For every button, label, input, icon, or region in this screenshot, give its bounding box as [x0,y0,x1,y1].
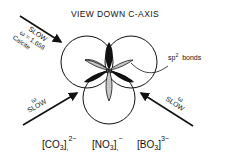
diagram-title: VIEW DOWN C-AXIS [71,9,159,19]
ion-formulas: [CO3],2− [NO3],− [BO3]3− [42,135,169,151]
top-left-annotation: SLOW ω = 1.658 Calcite [12,20,52,57]
lobe-top [105,42,113,70]
bottom-right-annotation: ω SLOW [164,89,189,112]
ion-borate: [BO3]3− [137,135,169,151]
sp2-pointer-line [131,63,168,73]
bottom-left-annotation: ω SLOW [23,91,48,114]
lobe-bottom [106,70,112,101]
sp2-bonds-label: sp2bonds [168,52,202,62]
carbonate-anisotropy-diagram: VIEW DOWN C-AXIS sp2bonds SLOW ω = 1.658… [0,0,227,165]
ion-nitrate: [NO3],− [92,135,123,151]
ion-carbonate: [CO3],2− [42,135,76,151]
